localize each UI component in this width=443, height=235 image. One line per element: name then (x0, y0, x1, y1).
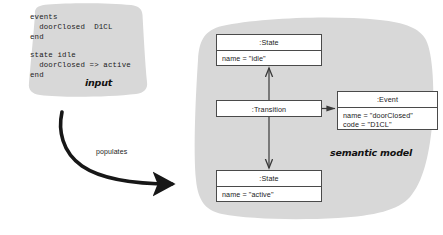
populates-label: populates (96, 148, 127, 155)
diagram-canvas: events doorClosed D1CL end state idle do… (0, 0, 443, 235)
uml-attribute-list: name = "active" (217, 187, 321, 202)
semantic-model-label: semantic model (330, 147, 412, 158)
uml-attribute: code = "D1CL" (343, 120, 433, 130)
input-label: input (85, 77, 112, 88)
uml-object-title: :Event (338, 92, 437, 107)
input-code-events-block: events doorClosed D1CL end (30, 12, 113, 43)
uml-attribute-list: name = "doorClosed" code = "D1CL" (338, 108, 437, 133)
uml-attribute: name = "idle" (222, 54, 317, 64)
uml-object-title: :Transition (217, 101, 321, 117)
uml-attribute: name = "doorClosed" (343, 111, 433, 121)
uml-attribute: name = "active" (222, 190, 317, 200)
input-code-state-block: state idle doorClosed => active end (30, 50, 131, 81)
uml-object-state-active[interactable]: :State name = "active" (216, 170, 322, 202)
uml-object-title: :State (217, 171, 321, 186)
uml-object-title: :State (217, 35, 321, 50)
uml-object-event[interactable]: :Event name = "doorClosed" code = "D1CL" (337, 91, 438, 130)
uml-object-transition[interactable]: :Transition (216, 100, 322, 117)
uml-attribute-list: name = "idle" (217, 51, 321, 66)
uml-object-state-idle[interactable]: :State name = "idle" (216, 34, 322, 66)
